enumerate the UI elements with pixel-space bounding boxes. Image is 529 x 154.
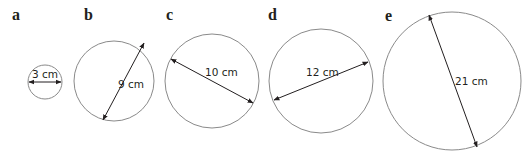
diameter-label-b: 9 cm bbox=[118, 78, 144, 90]
circle-a-group: a 3 cm bbox=[12, 6, 62, 99]
part-label-e: e bbox=[385, 7, 392, 24]
circle-e-group: e 21 cm bbox=[383, 7, 521, 150]
diameter-label-c: 10 cm bbox=[205, 66, 238, 78]
circle-c-group: c 10 cm bbox=[165, 6, 259, 128]
circle-b-group: b 9 cm bbox=[74, 6, 154, 121]
part-label-d: d bbox=[268, 6, 277, 23]
diameter-label-a: 3 cm bbox=[32, 68, 58, 80]
part-label-b: b bbox=[84, 6, 93, 23]
diameter-label-e: 21 cm bbox=[455, 75, 488, 87]
circles-diagram: a 3 cm b 9 cm c 10 cm d 12 cm e 21 cm bbox=[0, 0, 529, 154]
part-label-a: a bbox=[12, 6, 20, 23]
diameter-label-d: 12 cm bbox=[306, 66, 339, 78]
circle-e bbox=[383, 12, 521, 150]
part-label-c: c bbox=[166, 6, 173, 23]
circle-d-group: d 12 cm bbox=[268, 6, 373, 133]
